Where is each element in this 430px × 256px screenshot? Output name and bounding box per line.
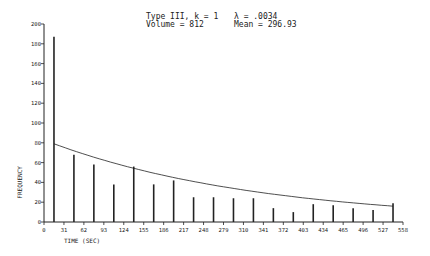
x-tick-label: 496 [358, 227, 368, 233]
x-tick-label: 310 [238, 227, 248, 233]
y-tick-label: 200 [31, 21, 41, 27]
y-tick-label: 60 [34, 160, 41, 166]
x-tick-label: 124 [119, 227, 130, 233]
y-tick-label: 100 [31, 120, 41, 126]
x-tick-label: 217 [179, 227, 189, 233]
axes [41, 24, 403, 225]
y-tick-label: 0 [38, 219, 41, 225]
x-tick-label: 93 [101, 227, 108, 233]
axis-labels: 0204060801001201401601802000316293124155… [16, 21, 408, 244]
x-tick-label: 465 [338, 227, 348, 233]
x-tick-label: 186 [159, 227, 169, 233]
x-tick-label: 403 [298, 227, 308, 233]
x-tick-label: 558 [398, 227, 408, 233]
y-tick-label: 40 [34, 179, 41, 185]
x-tick-label: 279 [219, 227, 229, 233]
y-tick-label: 140 [31, 80, 41, 86]
frequency-bars [54, 37, 393, 222]
x-tick-label: 341 [258, 227, 268, 233]
x-tick-label: 248 [199, 227, 209, 233]
frequency-histogram-chart: 0204060801001201401601802000316293124155… [0, 0, 430, 256]
y-tick-label: 20 [34, 199, 41, 205]
x-tick-label: 527 [378, 227, 388, 233]
x-tick-label: 62 [81, 227, 88, 233]
y-tick-label: 180 [31, 41, 41, 47]
y-axis-label: FREQUENCY [16, 166, 23, 199]
fitted-exponential-curve [54, 144, 393, 206]
x-tick-label: 155 [139, 227, 149, 233]
x-tick-label: 372 [278, 227, 288, 233]
x-tick-label: 31 [61, 227, 68, 233]
x-tick-label: 434 [318, 227, 329, 233]
x-axis-label: TIME (SEC) [64, 237, 100, 244]
y-tick-label: 160 [31, 61, 41, 67]
y-tick-label: 120 [31, 100, 41, 106]
annotation-mean: Mean = 296.93 [234, 21, 297, 29]
x-tick-label: 0 [42, 227, 45, 233]
y-tick-label: 80 [34, 140, 41, 146]
annotation-volume: Volume = 812 [146, 21, 204, 29]
